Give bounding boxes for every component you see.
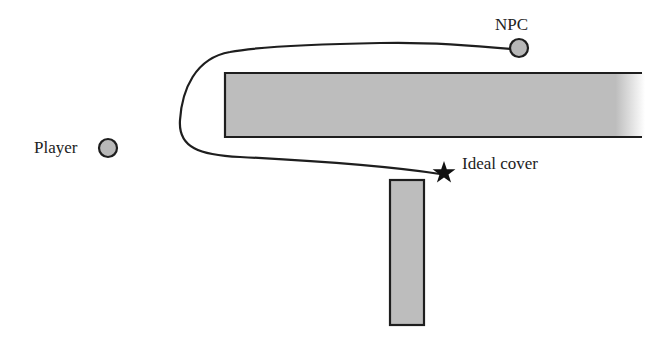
ideal-cover-label: Ideal cover: [462, 155, 538, 172]
ideal-cover-star-icon: [433, 161, 456, 183]
npc-label: NPC: [495, 16, 528, 33]
player-label: Player: [34, 139, 77, 156]
diagram-canvas: [0, 0, 671, 344]
horizontal-wall: [225, 72, 645, 138]
npc-marker: [510, 39, 528, 57]
player-marker: [99, 139, 117, 157]
cover-diagram: NPC Player Ideal cover: [0, 0, 671, 344]
vertical-wall: [390, 180, 424, 325]
